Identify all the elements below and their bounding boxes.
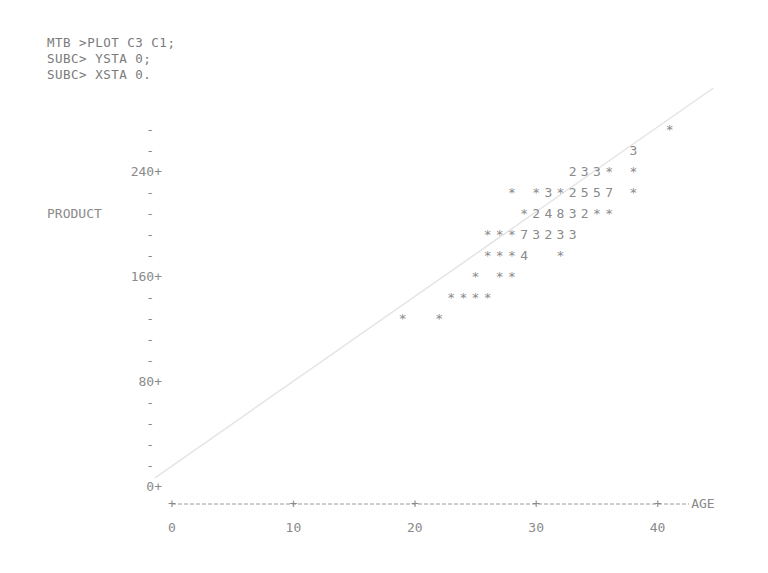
- y-minor-tick: -: [146, 353, 154, 368]
- y-axis-label: PRODUCT: [47, 206, 102, 221]
- x-tick-label: 30: [528, 520, 544, 535]
- data-point-count: 3: [569, 206, 577, 221]
- data-point-count: 3: [581, 164, 589, 179]
- data-point-count: 3: [569, 227, 577, 242]
- x-tick-label: 0: [168, 520, 176, 535]
- y-tick-label: 240+: [131, 164, 162, 179]
- data-point: *: [496, 227, 504, 242]
- data-point: *: [532, 185, 540, 200]
- data-point-count: 3: [593, 164, 601, 179]
- x-major-tick: +: [532, 496, 540, 511]
- data-point-count: 3: [532, 227, 540, 242]
- data-point: *: [629, 185, 637, 200]
- data-point-count: 3: [629, 143, 637, 158]
- y-minor-tick: -: [146, 416, 154, 431]
- data-point: *: [484, 290, 492, 305]
- data-point: *: [629, 164, 637, 179]
- data-point-count: 5: [593, 185, 601, 200]
- data-points: *3233****3*2557**24832*****73233***4****…: [399, 122, 674, 326]
- data-point: *: [496, 269, 504, 284]
- y-tick-label: 160+: [131, 269, 162, 284]
- data-point: *: [557, 185, 565, 200]
- data-point-count: 4: [544, 206, 552, 221]
- data-point: *: [472, 290, 480, 305]
- x-tick-label: 20: [407, 520, 423, 535]
- y-minor-tick: -: [146, 143, 154, 158]
- x-axis: +0+10+20+30+40AGE: [168, 496, 715, 535]
- y-tick-label: 0+: [146, 479, 162, 494]
- y-minor-tick: -: [146, 332, 154, 347]
- data-point: *: [508, 227, 516, 242]
- x-major-tick: +: [654, 496, 662, 511]
- data-point: *: [508, 248, 516, 263]
- data-point-count: 2: [532, 206, 540, 221]
- y-axis: 0+----80+----160+---PRODUCT-240+--: [47, 122, 162, 494]
- x-axis-label: AGE: [691, 496, 714, 511]
- data-point: *: [520, 206, 528, 221]
- data-point-count: 2: [569, 164, 577, 179]
- data-point: *: [484, 248, 492, 263]
- data-point-count: 3: [557, 227, 565, 242]
- data-point-count: 2: [544, 227, 552, 242]
- y-minor-tick: -: [146, 290, 154, 305]
- data-point-count: 4: [520, 248, 528, 263]
- data-point: *: [484, 227, 492, 242]
- x-tick-label: 10: [286, 520, 302, 535]
- data-point: *: [593, 206, 601, 221]
- data-point-count: 2: [581, 206, 589, 221]
- x-tick-label: 40: [650, 520, 666, 535]
- data-point: *: [605, 164, 613, 179]
- y-minor-tick: -: [146, 227, 154, 242]
- y-minor-tick: -: [146, 206, 154, 221]
- y-minor-tick: -: [146, 248, 154, 263]
- data-point: *: [666, 122, 674, 137]
- y-minor-tick: -: [146, 458, 154, 473]
- data-point-count: 8: [557, 206, 565, 221]
- x-major-tick: +: [289, 496, 297, 511]
- character-plot: 0+----80+----160+---PRODUCT-240+-- +0+10…: [0, 0, 768, 573]
- data-point: *: [508, 185, 516, 200]
- data-point: *: [459, 290, 467, 305]
- data-point: *: [435, 311, 443, 326]
- y-minor-tick: -: [146, 395, 154, 410]
- data-point: *: [496, 248, 504, 263]
- data-point: *: [605, 206, 613, 221]
- data-point: *: [447, 290, 455, 305]
- y-minor-tick: -: [146, 185, 154, 200]
- data-point-count: 5: [581, 185, 589, 200]
- x-major-tick: +: [411, 496, 419, 511]
- data-point-count: 2: [569, 185, 577, 200]
- data-point: *: [508, 269, 516, 284]
- y-minor-tick: -: [146, 311, 154, 326]
- data-point-count: 7: [605, 185, 613, 200]
- data-point-count: 3: [544, 185, 552, 200]
- y-minor-tick: -: [146, 122, 154, 137]
- data-point: *: [399, 311, 407, 326]
- y-minor-tick: -: [146, 437, 154, 452]
- x-major-tick: +: [168, 496, 176, 511]
- y-tick-label: 80+: [139, 374, 163, 389]
- data-point-count: 7: [520, 227, 528, 242]
- data-point: *: [472, 269, 480, 284]
- data-point: *: [557, 248, 565, 263]
